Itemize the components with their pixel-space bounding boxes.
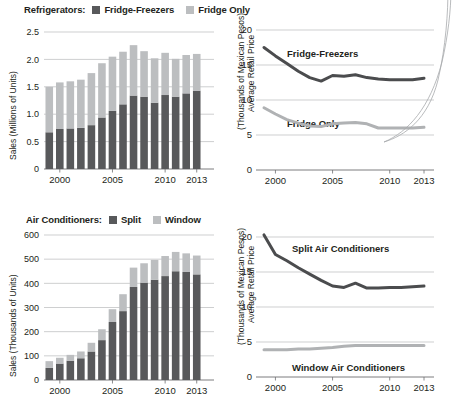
y-tick-label: 1.0	[26, 109, 39, 119]
panel-airconditioner-sales: Air Conditioners: Split Window Sales (Th…	[0, 205, 232, 418]
x-tick-label: 2005	[322, 175, 343, 186]
bar-segment	[140, 51, 148, 96]
y-tick-label: 600	[24, 230, 39, 240]
bar-segment	[56, 82, 64, 129]
data-line	[264, 235, 424, 288]
bar-segment	[182, 272, 190, 380]
bar-segment	[151, 58, 159, 102]
bar-segment	[56, 358, 64, 364]
y-tick-label: 5	[247, 129, 252, 140]
bar-segment	[182, 253, 190, 272]
bar-segment	[77, 80, 85, 128]
bar-segment	[109, 322, 117, 380]
y-tick-label: 500	[24, 254, 39, 264]
panel-refrigerator-sales: Refrigerators: Fridge-Freezers Fridge On…	[0, 0, 232, 205]
y-tick-label: 5	[247, 336, 252, 347]
bar-segment	[88, 351, 96, 380]
bar-segment	[119, 294, 127, 311]
bar-segment	[140, 97, 148, 169]
figure-root: Refrigerators: Fridge-Freezers Fridge On…	[0, 0, 465, 418]
y-tick-label: 10	[241, 301, 252, 312]
bar-segment	[45, 368, 53, 380]
bar-segment	[140, 283, 148, 380]
y-tick-label: 0	[34, 375, 39, 385]
y-tick-label: 0	[247, 164, 252, 175]
data-line	[264, 346, 424, 350]
y-tick-label: 2.5	[26, 27, 39, 37]
x-tick-label: 2010	[155, 174, 176, 185]
bar-segment	[172, 59, 180, 97]
y-tick-label: 0	[247, 371, 252, 382]
bar-segment	[88, 343, 96, 352]
bar-segment	[172, 97, 180, 169]
bar-segment	[151, 103, 159, 169]
bar-segment	[98, 117, 106, 169]
x-tick-label: 2005	[102, 174, 123, 185]
bar-segment	[193, 256, 201, 275]
bar-segment	[151, 280, 159, 380]
bar-segment	[119, 311, 127, 380]
bar-segment	[130, 287, 138, 380]
bar-segment	[67, 361, 75, 380]
bar-segment	[67, 355, 75, 361]
bar-segment	[45, 87, 53, 132]
bar-segment	[130, 268, 138, 287]
bar-segment	[98, 63, 106, 117]
bar-segment	[45, 132, 53, 169]
bar-segment	[161, 256, 169, 276]
x-tick-label: 2013	[186, 385, 207, 396]
y-tick-label: 20	[241, 24, 252, 35]
refrigerator-sales-plot: 00.51.01.52.02.52000200520102013	[0, 0, 232, 205]
bar-segment	[109, 111, 117, 169]
bar-segment	[161, 276, 169, 380]
x-tick-label: 2005	[322, 382, 343, 393]
x-tick-label: 2010	[155, 385, 176, 396]
y-tick-label: 1.5	[26, 82, 39, 92]
data-line	[264, 108, 424, 128]
x-tick-label: 2013	[413, 382, 434, 393]
bar-segment	[88, 125, 96, 169]
panel-refrigerator-price: (Thousands of Mexican Pesos) Average Ret…	[232, 0, 465, 205]
bar-segment	[56, 129, 64, 169]
refrigerator-price-plot: 051015202000200520102013	[232, 0, 465, 205]
bar-segment	[77, 358, 85, 380]
y-tick-label: 300	[24, 303, 39, 313]
y-tick-label: 400	[24, 279, 39, 289]
y-tick-label: 100	[24, 351, 39, 361]
bar-segment	[182, 55, 190, 93]
y-tick-label: 200	[24, 327, 39, 337]
bar-segment	[140, 263, 148, 282]
x-tick-label: 2013	[186, 174, 207, 185]
data-line	[264, 48, 424, 82]
bar-segment	[193, 54, 201, 91]
bar-segment	[77, 128, 85, 169]
y-tick-label: 15	[241, 59, 252, 70]
bar-segment	[88, 73, 96, 125]
bar-segment	[98, 329, 106, 340]
bar-segment	[67, 128, 75, 169]
bar-segment	[56, 364, 64, 380]
x-tick-label: 2010	[379, 175, 400, 186]
bar-segment	[119, 52, 127, 105]
bar-segment	[77, 351, 85, 358]
bar-segment	[119, 104, 127, 169]
bar-segment	[161, 53, 169, 95]
bar-segment	[67, 81, 75, 128]
y-tick-label: 0.5	[26, 137, 39, 147]
bar-segment	[130, 96, 138, 169]
y-tick-label: 2.0	[26, 55, 39, 65]
y-tick-label: 0	[34, 164, 39, 174]
x-tick-label: 2000	[49, 385, 70, 396]
bar-segment	[182, 93, 190, 169]
x-tick-label: 2013	[413, 175, 434, 186]
bar-segment	[45, 361, 53, 368]
airconditioner-price-plot: 051015202000200520102013	[232, 205, 465, 418]
callout-curve	[384, 0, 448, 142]
y-tick-label: 10	[241, 94, 252, 105]
bar-segment	[193, 91, 201, 169]
bar-segment	[109, 309, 117, 322]
bar-segment	[193, 274, 201, 380]
panel-airconditioner-price: (Thousands of Mexican Pesos) Average Ret…	[232, 205, 465, 418]
y-tick-label: 15	[241, 266, 252, 277]
bar-segment	[109, 57, 117, 111]
